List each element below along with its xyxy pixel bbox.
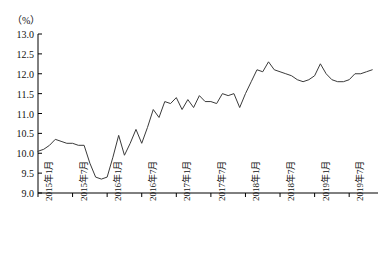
y-axis-tick-label: 10.5 [0, 128, 34, 139]
x-axis-tick-label: 2015年7月 [77, 161, 90, 202]
x-axis-tick-label: 2018年1月 [249, 161, 262, 202]
x-axis-tick-label: 2019年7月 [353, 161, 366, 202]
x-axis-tick-label: 2019年1月 [319, 161, 332, 202]
x-axis-tick-label: 2017年1月 [180, 161, 193, 202]
x-axis-tick-label: 2016年1月 [111, 161, 124, 202]
y-axis-tick-label: 9.0 [0, 188, 34, 199]
x-axis-tick-label: 2016年7月 [146, 161, 159, 202]
y-axis-tick-label: 11.0 [0, 108, 34, 119]
y-axis-tick-label: 9.5 [0, 168, 34, 179]
y-axis-tick-label: 11.5 [0, 88, 34, 99]
y-axis-tick-label: 13.0 [0, 29, 34, 40]
x-axis-tick-label: 2015年1月 [42, 161, 55, 202]
chart-canvas [0, 0, 387, 263]
line-chart: （%） 13.012.512.011.511.010.510.09.59.0 2… [0, 0, 387, 263]
x-axis-tick-label: 2017年7月 [215, 161, 228, 202]
y-axis-tick-label: 12.0 [0, 68, 34, 79]
y-axis-tick-label: 10.0 [0, 148, 34, 159]
y-axis-tick-label: 12.5 [0, 48, 34, 59]
x-axis-tick-label: 2018年7月 [284, 161, 297, 202]
